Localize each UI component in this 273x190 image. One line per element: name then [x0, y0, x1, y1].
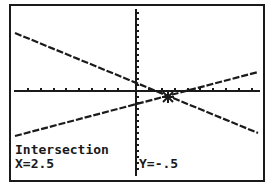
y-value-readout: Y=-.5 [139, 157, 178, 171]
x-value-readout: X=2.5 [15, 157, 54, 171]
y-axis [136, 9, 139, 176]
intersection-cursor-icon [162, 91, 174, 103]
intersection-title: Intersection [15, 143, 109, 157]
